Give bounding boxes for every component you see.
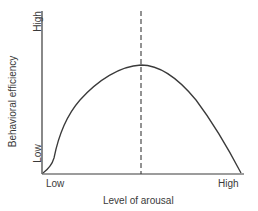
y-axis-title: Behavioral efficiency: [7, 47, 18, 157]
y-tick-high: High: [32, 7, 43, 37]
x-axis-title: Level of arousal: [103, 195, 174, 206]
x-tick-low: Low: [46, 178, 64, 189]
y-tick-low: Low: [32, 139, 43, 169]
inverted-u-curve: [43, 65, 241, 173]
x-tick-high: High: [218, 178, 239, 189]
